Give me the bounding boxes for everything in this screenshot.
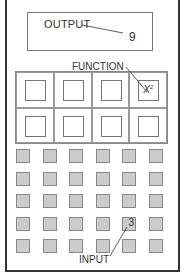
function-slot [63, 80, 84, 101]
function-cell [92, 72, 130, 108]
function-slot [25, 116, 46, 137]
input-square [43, 149, 57, 163]
input-square [16, 217, 30, 231]
function-cell [54, 108, 92, 144]
input-value: 3 [128, 217, 134, 228]
function-expression: X2 [143, 84, 153, 95]
input-square [69, 194, 83, 208]
input-square [69, 217, 83, 231]
input-square [122, 149, 136, 163]
input-square [43, 239, 57, 253]
function-slot [138, 116, 159, 137]
input-square: 3 [122, 217, 136, 231]
function-slot [25, 80, 46, 101]
function-cell [16, 108, 54, 144]
function-cell [16, 72, 54, 108]
input-square [149, 149, 163, 163]
input-square [122, 172, 136, 186]
input-square [16, 239, 30, 253]
input-square [96, 172, 110, 186]
function-cell [92, 108, 130, 144]
function-slot [101, 80, 122, 101]
function-cell [129, 108, 167, 144]
function-slot [101, 116, 122, 137]
input-square [96, 149, 110, 163]
output-label: OUTPUT [44, 18, 90, 30]
input-square [122, 194, 136, 208]
input-square [149, 172, 163, 186]
input-square [43, 194, 57, 208]
input-square [122, 239, 136, 253]
function-cell: X2 [129, 72, 167, 108]
output-value: 9 [129, 30, 136, 44]
input-square [96, 217, 110, 231]
input-square [149, 194, 163, 208]
input-square [96, 239, 110, 253]
input-square [43, 217, 57, 231]
input-square [43, 172, 57, 186]
input-square [149, 239, 163, 253]
function-slot: X2 [138, 80, 159, 101]
input-square [16, 194, 30, 208]
function-cell [54, 72, 92, 108]
input-square [69, 172, 83, 186]
input-square [16, 172, 30, 186]
input-square [16, 149, 30, 163]
input-square [69, 239, 83, 253]
input-grid: 3 [16, 149, 163, 253]
input-label: INPUT [79, 254, 109, 265]
function-slot [63, 116, 84, 137]
input-square [96, 194, 110, 208]
input-square [69, 149, 83, 163]
function-grid: X2 [15, 71, 168, 144]
input-square [149, 217, 163, 231]
